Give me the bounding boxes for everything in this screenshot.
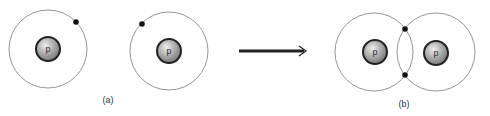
electron-hydrogen-atom-2 [139, 21, 145, 27]
reaction-arrow [239, 46, 306, 56]
nucleus-hydrogen-atom-1: p [36, 37, 60, 61]
nucleus-hydrogen-atom-2: p [157, 39, 181, 63]
hydrogen-bond-diagram: pppp [0, 0, 490, 116]
electron-hydrogen-atom-1 [73, 19, 79, 25]
proton-symbol: p [433, 48, 438, 58]
nucleus-bonded-atom-left: p [363, 40, 387, 64]
panel-b-label: (b) [399, 100, 410, 109]
shared-electron-2 [402, 72, 408, 78]
nucleus-bonded-atom-right: p [424, 41, 448, 65]
electrons-layer [73, 19, 408, 78]
shared-electron-1 [402, 26, 408, 32]
proton-symbol: p [372, 47, 377, 57]
panel-a-label: (a) [103, 96, 114, 105]
proton-symbol: p [45, 44, 50, 54]
proton-symbol: p [166, 46, 171, 56]
